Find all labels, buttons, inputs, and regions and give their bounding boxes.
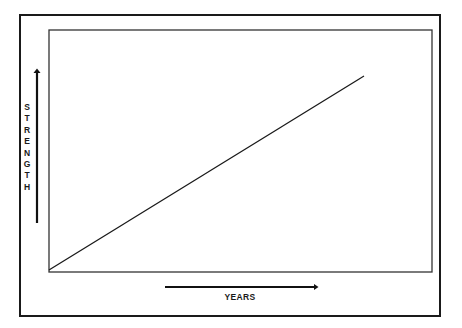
x-arrowhead-icon	[314, 284, 319, 290]
y-letter: H	[24, 182, 30, 193]
y-letter: S	[24, 102, 30, 113]
y-axis-label: S T R E N G T H	[22, 102, 32, 193]
strength-line	[49, 76, 364, 270]
y-arrowhead-icon	[34, 69, 41, 74]
y-letter: N	[24, 148, 30, 159]
y-letter: E	[24, 136, 30, 147]
x-axis-label: YEARS	[210, 292, 270, 302]
y-letter: R	[24, 125, 30, 136]
outer-frame	[20, 15, 440, 316]
y-letter: G	[24, 159, 31, 170]
y-letter: T	[24, 113, 29, 124]
plot-area	[49, 30, 432, 272]
y-letter: T	[24, 170, 29, 181]
diagram-canvas	[0, 0, 462, 328]
